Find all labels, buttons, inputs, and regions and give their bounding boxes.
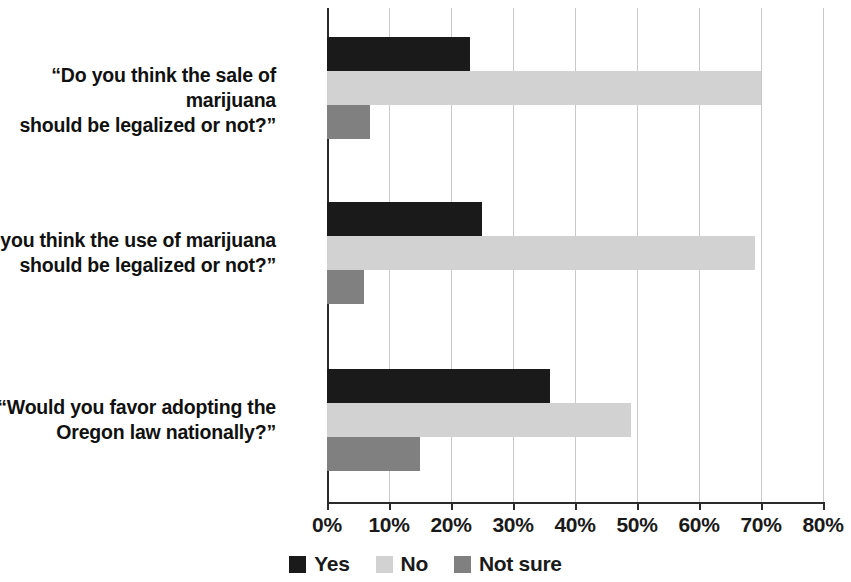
bar-no-group-1	[327, 71, 761, 105]
x-axis-tick-label: 80%	[802, 513, 843, 537]
x-axis-tick	[513, 502, 515, 510]
x-axis-tick	[699, 502, 701, 510]
bar-yes-group-1	[327, 37, 470, 71]
x-axis-tick-label: 10%	[368, 513, 409, 537]
bar-no-group-3	[327, 403, 631, 437]
gridline-70	[761, 8, 762, 502]
x-axis-tick	[637, 502, 639, 510]
legend-swatch-icon	[289, 556, 306, 573]
legend-swatch-icon	[376, 556, 393, 573]
x-axis-tick-label: 0%	[312, 513, 342, 537]
x-axis-tick-label: 20%	[430, 513, 471, 537]
x-axis-tick-label: 60%	[678, 513, 719, 537]
legend-label: Yes	[314, 552, 349, 576]
legend-label: Not sure	[479, 552, 562, 576]
x-axis-tick-label: 50%	[616, 513, 657, 537]
category-label-3: “Would you favor adopting theOregon law …	[0, 395, 276, 445]
x-axis-tick	[327, 502, 329, 510]
bar-yes-group-3	[327, 369, 550, 403]
category-label-line: should be legalized or not?”	[0, 253, 276, 278]
bar-no-group-2	[327, 236, 755, 270]
category-label-line: “Do you think the sale of marijuana	[0, 63, 276, 113]
category-label-line: Oregon law nationally?”	[0, 420, 276, 445]
bar-yes-group-2	[327, 202, 482, 236]
category-label-line: “Do you think the use of marijuana	[0, 228, 276, 253]
bar-not-sure-group-2	[327, 270, 364, 304]
chart-legend: YesNoNot sure	[0, 552, 851, 576]
plot-area	[327, 8, 823, 502]
x-axis-tick	[389, 502, 391, 510]
x-axis-tick-label: 70%	[740, 513, 781, 537]
legend-swatch-icon	[454, 556, 471, 573]
x-axis-tick	[823, 502, 825, 510]
category-label-line: “Would you favor adopting the	[0, 395, 276, 420]
x-axis-tick-label: 30%	[492, 513, 533, 537]
legend-item-no: No	[376, 552, 428, 576]
x-axis-tick	[761, 502, 763, 510]
bar-not-sure-group-3	[327, 437, 420, 471]
x-axis-tick	[575, 502, 577, 510]
category-label-1: “Do you think the sale of marijuanashoul…	[0, 63, 276, 138]
legend-item-not-sure: Not sure	[454, 552, 562, 576]
category-label-2: “Do you think the use of marijuanashould…	[0, 228, 276, 278]
legend-item-yes: Yes	[289, 552, 349, 576]
legend-label: No	[401, 552, 428, 576]
bar-chart: 0%10%20%30%40%50%60%70%80% “Do you think…	[0, 0, 851, 582]
gridline-80	[823, 8, 824, 502]
x-axis-tick	[451, 502, 453, 510]
bar-not-sure-group-1	[327, 105, 370, 139]
category-label-line: should be legalized or not?”	[0, 113, 276, 138]
x-axis-tick-label: 40%	[554, 513, 595, 537]
